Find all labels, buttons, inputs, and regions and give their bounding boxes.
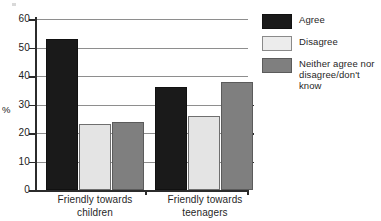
legend-swatch-disagree-icon xyxy=(262,36,292,51)
x-axis-line xyxy=(35,190,249,192)
y-axis-title: % xyxy=(2,104,10,115)
x-group-label-teenagers-line2: teenagers xyxy=(140,207,270,220)
legend-item-disagree: Disagree xyxy=(262,35,380,51)
legend-label-neither-line2: disagree/don't know xyxy=(299,69,380,91)
x-group-label-teenagers-line1: Friendly towards xyxy=(140,194,270,207)
legend-label-neither-line1: Neither agree nor xyxy=(299,58,380,69)
ytick-label-30: 30 xyxy=(8,100,30,110)
bar-children-agree xyxy=(46,39,78,190)
bar-chart: 60 50 40 30 20 10 0 % Friendly towards c… xyxy=(0,0,381,221)
bar-children-neither xyxy=(112,122,144,190)
ytick-label-60: 60 xyxy=(8,14,30,24)
ytick-label-40: 40 xyxy=(8,71,30,81)
plot-area xyxy=(35,19,248,190)
legend-label-neither: Neither agree nor disagree/don't know xyxy=(299,57,380,91)
bar-children-disagree xyxy=(79,124,111,190)
legend-label-agree: Agree xyxy=(299,13,325,25)
bar-teenagers-disagree xyxy=(188,116,220,190)
ytick-label-10: 10 xyxy=(8,157,30,167)
legend-swatch-neither-icon xyxy=(262,58,292,73)
legend: Agree Disagree Neither agree nor disagre… xyxy=(262,13,380,97)
bar-teenagers-agree xyxy=(155,87,187,190)
ytick-label-50: 50 xyxy=(8,43,30,53)
ytick-label-20: 20 xyxy=(8,128,30,138)
x-group-label-teenagers: Friendly towards teenagers xyxy=(140,194,270,219)
legend-swatch-agree-icon xyxy=(262,14,292,29)
bar-teenagers-neither xyxy=(221,82,253,190)
scan-artifact xyxy=(12,3,16,6)
legend-item-neither: Neither agree nor disagree/don't know xyxy=(262,57,380,91)
ytick-label-0: 0 xyxy=(8,185,30,195)
legend-label-disagree: Disagree xyxy=(299,35,338,47)
legend-item-agree: Agree xyxy=(262,13,380,29)
